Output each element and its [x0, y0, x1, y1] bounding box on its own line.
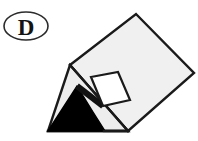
option-label-letter: D — [18, 15, 35, 40]
pencil-wedge-figure: D — [0, 0, 198, 141]
figure-canvas: D — [0, 0, 198, 141]
option-label-badge: D — [4, 12, 48, 40]
